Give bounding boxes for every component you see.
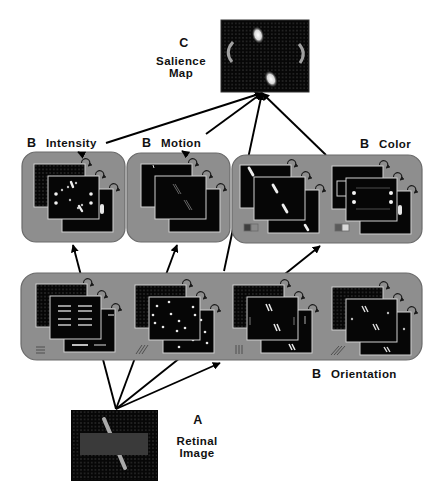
retinal-title-line1: Retinal — [176, 435, 217, 447]
feature-bar — [398, 205, 402, 215]
feature-map — [346, 178, 397, 221]
salience-letter: C — [179, 36, 188, 50]
motion-label: B Motion — [142, 136, 201, 150]
feature-map — [48, 176, 99, 219]
feature-spot — [176, 330, 179, 333]
color-label: B Color — [360, 137, 411, 151]
feature-map-frame — [48, 176, 99, 219]
feature-spot — [389, 200, 393, 204]
feature-spot — [154, 322, 157, 325]
feature-spot — [387, 312, 389, 314]
feature-spot — [403, 328, 405, 330]
feature-spot — [194, 314, 197, 317]
color-letter: B — [360, 137, 369, 151]
feature-bar — [100, 204, 104, 214]
blue-yellow-swatch-icon — [335, 224, 349, 231]
feature-spot — [352, 200, 356, 204]
visual-saliency-model-diagram: C Salience Map B Intensity B Motion B Co… — [0, 0, 443, 497]
feature-map-frame — [149, 297, 200, 340]
feature-spot — [389, 191, 393, 195]
feature-map — [155, 176, 206, 219]
feature-spot — [206, 342, 209, 345]
feature-spot — [162, 326, 165, 329]
feature-map — [50, 296, 101, 339]
salience-title-line2: Map — [169, 67, 193, 79]
feature-spot — [54, 201, 58, 205]
feature-spot — [152, 314, 155, 317]
feature-spot — [351, 318, 353, 320]
motion-letter: B — [142, 136, 151, 150]
arrow-intensity-to-salience — [106, 93, 262, 143]
orientation-title: Orientation — [331, 368, 397, 380]
feature-spot — [61, 189, 63, 191]
orientation-label: B Orientation — [312, 367, 397, 381]
grid-texture — [222, 21, 308, 91]
orientation-letter: B — [312, 367, 321, 381]
feature-spot — [75, 182, 77, 184]
feature-map-frame — [346, 178, 397, 221]
feature-spot — [184, 327, 187, 330]
feature-spot — [67, 186, 69, 188]
color-title: Color — [379, 138, 411, 150]
feature-map — [254, 177, 305, 220]
intensity-letter: B — [27, 136, 36, 150]
intensity-title: Intensity — [46, 137, 97, 149]
motion-title: Motion — [161, 137, 201, 149]
feature-map — [346, 299, 397, 342]
retinal-image — [71, 410, 158, 481]
arrow-color-to-salience — [262, 93, 326, 155]
feature-map-frame — [155, 176, 206, 219]
feature-map — [247, 297, 298, 340]
intensity-label: B Intensity — [27, 136, 97, 150]
retinal-image-label: A Retinal Image — [176, 413, 217, 459]
feature-spot — [204, 331, 207, 334]
feature-spot — [81, 204, 83, 206]
salience-map-label: C Salience Map — [156, 36, 206, 79]
feature-map-frame — [50, 296, 101, 339]
rectangle-stimulus — [80, 433, 148, 455]
feature-spot — [89, 192, 93, 196]
salience-map — [221, 20, 309, 92]
feature-spot — [192, 306, 195, 309]
feature-spot — [178, 346, 181, 349]
feature-map — [149, 297, 200, 340]
salience-title-line1: Salience — [156, 55, 206, 67]
feature-spot — [352, 191, 356, 195]
feature-spot — [89, 201, 93, 205]
feature-spot — [69, 199, 71, 201]
arrow-retina-to-orientation — [116, 363, 220, 409]
retinal-letter: A — [193, 413, 202, 427]
feature-spot — [170, 313, 173, 316]
feature-spot — [156, 305, 159, 308]
feature-spot — [168, 301, 171, 304]
retinal-title-line2: Image — [179, 447, 214, 459]
feature-map-frame — [254, 177, 305, 220]
feature-map-frame — [247, 297, 298, 340]
feature-map-frame — [346, 299, 397, 342]
feature-spot — [178, 320, 181, 323]
feature-spot — [54, 192, 58, 196]
red-green-swatch-icon — [244, 224, 258, 231]
